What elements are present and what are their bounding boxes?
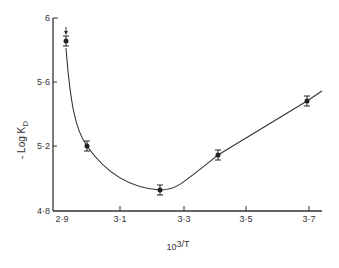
x-tick-label: 3·1 [113, 214, 126, 224]
y-tick-label: 6 [45, 13, 50, 23]
x-tick-label: 2·9 [55, 214, 68, 224]
data-point [157, 185, 163, 195]
data-point [304, 96, 310, 106]
x-tick-label: 3·3 [177, 214, 190, 224]
data-point [63, 36, 69, 46]
x-axis-label: 103/T [166, 239, 190, 252]
y-tick-label: 5·2 [37, 141, 50, 151]
x-tick-label: 3·5 [239, 214, 252, 224]
chart: 6 5·6 5·2 4·8 2·9 3·1 3·3 3·5 3·7 - Log … [0, 0, 339, 268]
fit-curve [66, 48, 322, 190]
data-point [215, 150, 221, 160]
y-tick-label: 5·6 [37, 77, 50, 87]
x-tick-label: 3·7 [302, 214, 315, 224]
y-tick-label: 4·8 [37, 206, 50, 216]
y-axis-label: - Log KD [16, 121, 30, 159]
